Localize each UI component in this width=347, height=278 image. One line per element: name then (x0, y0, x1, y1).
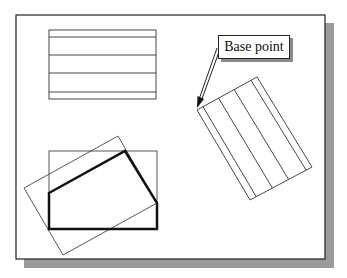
diagram-canvas (0, 0, 347, 278)
base-point-label: Base point (218, 35, 290, 59)
base-point-label-text: Base point (224, 39, 284, 55)
